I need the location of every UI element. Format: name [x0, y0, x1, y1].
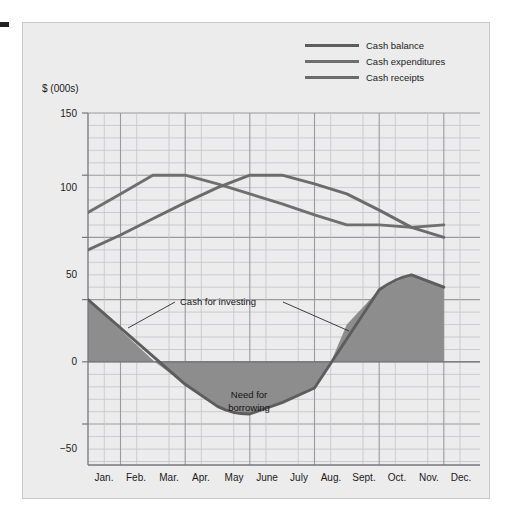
x-tick-label-feb: Feb. — [126, 472, 146, 483]
legend-label-cash-balance: Cash balance — [366, 40, 424, 51]
chart-legend: Cash balance Cash expenditures Cash rece… — [305, 40, 445, 83]
x-tick-label-sept: Sept. — [352, 472, 375, 483]
annotation-need-for-borrowing-line2: borrowing — [228, 402, 270, 413]
page-root: Cash for investing Need for borrowing $ … — [0, 0, 512, 519]
y-tick-label-50: 50 — [66, 269, 78, 280]
annotation-need-for-borrowing-line1: Need for — [231, 389, 267, 400]
x-tick-label-jan: Jan. — [95, 472, 114, 483]
legend-label-cash-expenditures: Cash expenditures — [366, 56, 445, 67]
y-tick-label-100: 100 — [60, 182, 77, 193]
x-tick-label-mar: Mar. — [159, 472, 178, 483]
y-axis-ticks — [82, 113, 88, 424]
x-tick-label-aug: Aug. — [321, 472, 342, 483]
x-tick-label-nov: Nov. — [419, 472, 439, 483]
x-tick-label-apr: Apr. — [192, 472, 210, 483]
y-tick-label-minus-50: −50 — [60, 443, 77, 454]
cash-flow-chart: Cash for investing Need for borrowing $ … — [0, 0, 512, 519]
x-tick-label-june: June — [256, 472, 278, 483]
y-axis-title: $ (000s) — [42, 83, 79, 94]
cash-for-investing-area-late — [331, 275, 444, 362]
x-tick-label-oct: Oct. — [388, 472, 406, 483]
legend-label-cash-receipts: Cash receipts — [366, 72, 424, 83]
annotation-cash-for-investing: Cash for investing — [180, 296, 256, 307]
x-tick-label-may: May — [225, 472, 244, 483]
y-tick-label-150: 150 — [60, 108, 77, 119]
y-tick-label-0: 0 — [71, 356, 77, 367]
x-tick-label-dec: Dec. — [451, 472, 472, 483]
x-tick-label-july: July — [290, 472, 308, 483]
